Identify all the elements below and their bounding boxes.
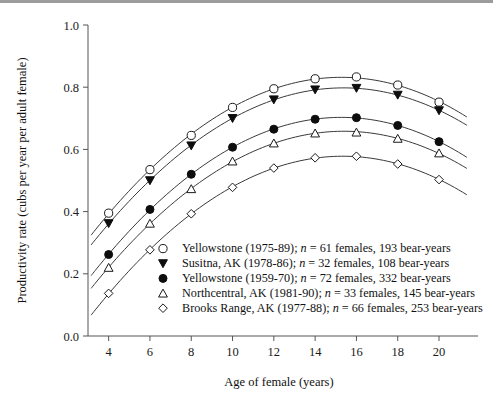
marker-filled-circle bbox=[187, 170, 195, 178]
marker-filled-circle bbox=[159, 274, 167, 282]
x-tick-label: 14 bbox=[309, 345, 322, 359]
marker-open-circle bbox=[105, 209, 113, 217]
marker-open-diamond bbox=[228, 183, 237, 192]
marker-open-diamond bbox=[311, 153, 320, 162]
x-axis-title: Age of female (years) bbox=[224, 375, 333, 389]
marker-filled-circle bbox=[229, 143, 237, 151]
y-tick-label: 0.0 bbox=[63, 330, 79, 344]
series-group bbox=[91, 84, 467, 245]
y-axis-title: Productivity rate (cubs per year per adu… bbox=[15, 57, 29, 303]
marker-open-diamond bbox=[435, 175, 444, 184]
legend: Yellowstone (1975-89); n = 61 females, 1… bbox=[159, 241, 483, 315]
marker-open-circle bbox=[159, 245, 167, 253]
marker-open-circle bbox=[270, 85, 278, 93]
y-tick-label: 0.2 bbox=[63, 267, 79, 281]
marker-filled-triangle-down bbox=[228, 115, 237, 123]
marker-open-circle bbox=[146, 166, 154, 174]
marker-filled-circle bbox=[146, 205, 154, 213]
marker-filled-circle bbox=[352, 114, 360, 122]
legend-label: Northcentral, AK (1981-90); n = 33 femal… bbox=[182, 286, 475, 300]
legend-item[interactable]: Northcentral, AK (1981-90); n = 33 femal… bbox=[159, 286, 476, 300]
y-tick-label: 0.6 bbox=[63, 143, 79, 157]
marker-filled-circle bbox=[311, 115, 319, 123]
marker-open-circle bbox=[394, 81, 402, 89]
marker-open-triangle-up bbox=[393, 134, 402, 142]
marker-filled-circle bbox=[435, 138, 443, 146]
x-tick-label: 6 bbox=[147, 345, 153, 359]
marker-open-diamond bbox=[270, 164, 279, 173]
marker-open-circle bbox=[435, 98, 443, 106]
marker-filled-circle bbox=[105, 251, 113, 259]
legend-label: Brooks Range, AK (1977-88); n = 66 femal… bbox=[182, 301, 483, 315]
marker-filled-triangle-down bbox=[159, 260, 168, 268]
x-tick-label: 20 bbox=[433, 345, 446, 359]
marker-filled-triangle-down bbox=[435, 107, 444, 115]
legend-label: Yellowstone (1975-89); n = 61 females, 1… bbox=[182, 241, 451, 255]
marker-open-circle bbox=[352, 73, 360, 81]
marker-open-circle bbox=[228, 103, 236, 111]
marker-open-diamond bbox=[159, 304, 168, 313]
y-tick-label: 0.4 bbox=[63, 205, 79, 219]
x-tick-label: 12 bbox=[268, 345, 281, 359]
marker-open-triangle-up bbox=[104, 263, 113, 271]
x-tick-label: 16 bbox=[350, 345, 363, 359]
y-tick-label: 1.0 bbox=[63, 19, 79, 33]
y-tick-label: 0.8 bbox=[63, 81, 79, 95]
marker-open-triangle-up bbox=[435, 149, 444, 157]
marker-filled-triangle-down bbox=[104, 220, 113, 228]
legend-item[interactable]: Yellowstone (1959-70); n = 72 females, 3… bbox=[159, 271, 451, 285]
marker-filled-triangle-down bbox=[187, 142, 196, 150]
marker-open-triangle-up bbox=[228, 157, 237, 165]
marker-open-diamond bbox=[393, 160, 402, 169]
x-tick-label: 18 bbox=[391, 345, 404, 359]
figure-canvas: 0.00.20.40.60.81.0468101214161820Age of … bbox=[0, 0, 493, 406]
legend-item[interactable]: Brooks Range, AK (1977-88); n = 66 femal… bbox=[159, 301, 483, 315]
marker-filled-circle bbox=[394, 121, 402, 129]
marker-filled-circle bbox=[270, 125, 278, 133]
legend-item[interactable]: Yellowstone (1975-89); n = 61 females, 1… bbox=[159, 241, 451, 255]
legend-label: Yellowstone (1959-70); n = 72 females, 3… bbox=[182, 271, 451, 285]
marker-filled-triangle-down bbox=[393, 91, 402, 99]
marker-filled-triangle-down bbox=[269, 96, 278, 104]
marker-open-diamond bbox=[352, 152, 361, 161]
x-tick-label: 8 bbox=[188, 345, 194, 359]
x-tick-label: 10 bbox=[226, 345, 239, 359]
marker-open-circle bbox=[311, 75, 319, 83]
legend-label: Susitna, AK (1978-86); n = 32 females, 1… bbox=[182, 256, 450, 270]
marker-open-triangle-up bbox=[269, 139, 278, 147]
legend-item[interactable]: Susitna, AK (1978-86); n = 32 females, 1… bbox=[159, 256, 450, 270]
marker-open-triangle-up bbox=[159, 289, 168, 297]
scan-top-edge bbox=[0, 0, 493, 3]
productivity-rate-line-chart: 0.00.20.40.60.81.0468101214161820Age of … bbox=[0, 0, 493, 406]
x-tick-label: 4 bbox=[106, 345, 113, 359]
marker-open-circle bbox=[187, 131, 195, 139]
